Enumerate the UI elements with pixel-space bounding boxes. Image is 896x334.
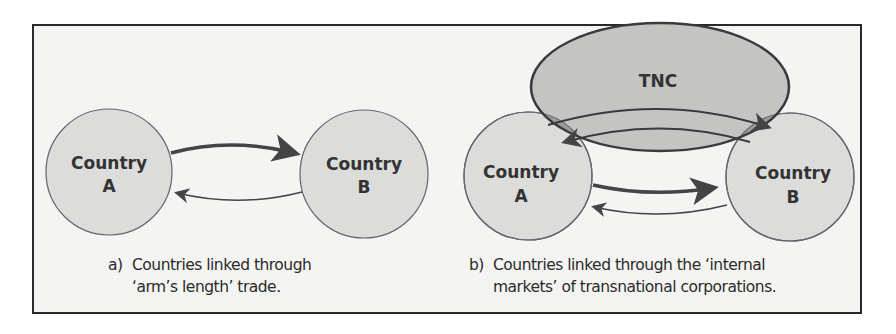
caption-a: a) Countries linked through ‘arm’s lengt… [108,254,348,300]
caption-b: b) Countries linked through the ‘interna… [469,254,869,300]
tnc-label: TNC [639,71,677,91]
arrow-b-to-a-light [177,192,302,200]
country-b-label-b: Country [755,163,831,183]
arrow-b-to-a-light-b [594,205,727,214]
country-b-letter-b: B [787,187,800,207]
country-a-letter: A [102,176,116,196]
caption-b-label: b) [469,254,484,276]
panel-a: Country A Country B [46,109,428,238]
country-a-label-b: Country [483,162,559,182]
country-b-label: Country [326,154,402,174]
arrow-a-to-b-heavy-b [593,185,712,192]
caption-b-line2: markets’ of transnational corporations. [493,276,776,298]
country-a-label: Country [71,153,147,173]
country-b-letter: B [358,177,371,197]
arrow-a-to-b-heavy [171,145,294,153]
panel-b: TNC Country A Country B [464,23,854,241]
caption-a-label: a) [108,254,123,276]
country-b-circle [300,110,428,238]
country-a-letter-b: A [514,186,528,206]
caption-b-line1: Countries linked through the ‘internal [493,254,765,276]
caption-a-line1: Countries linked through [132,254,311,276]
caption-a-line2: ‘arm’s length’ trade. [132,276,281,298]
